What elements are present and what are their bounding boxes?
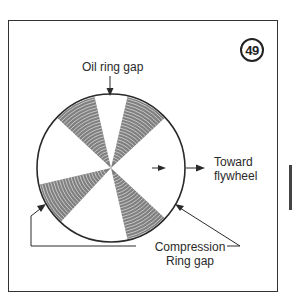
- piston-ring-gap-figure: 49 Oil ring gap Toward flywheel Compress…: [0, 0, 294, 308]
- hatched-wedge: [111, 168, 164, 239]
- figure-number: 49: [245, 43, 258, 58]
- compression-ring-gap-label: Compression Ring gap: [150, 240, 230, 268]
- toward-line2: flywheel: [214, 169, 257, 183]
- page-edge-marker: [289, 165, 292, 210]
- hatched-wedge: [40, 168, 111, 221]
- hatched-wedge: [111, 97, 164, 168]
- toward-flywheel-label: Toward flywheel: [214, 155, 257, 183]
- oil-ring-gap-arrow-icon: [107, 76, 114, 96]
- compression-line1: Compression: [150, 240, 230, 254]
- toward-flywheel-arrow-icon: [152, 165, 205, 172]
- oil-ring-gap-label: Oil ring gap: [82, 60, 143, 74]
- figure-number-badge: 49: [240, 38, 264, 62]
- compression-line2: Ring gap: [150, 254, 230, 268]
- hatched-wedges: [40, 97, 164, 239]
- toward-line1: Toward: [214, 155, 257, 169]
- hatched-wedge: [58, 97, 111, 168]
